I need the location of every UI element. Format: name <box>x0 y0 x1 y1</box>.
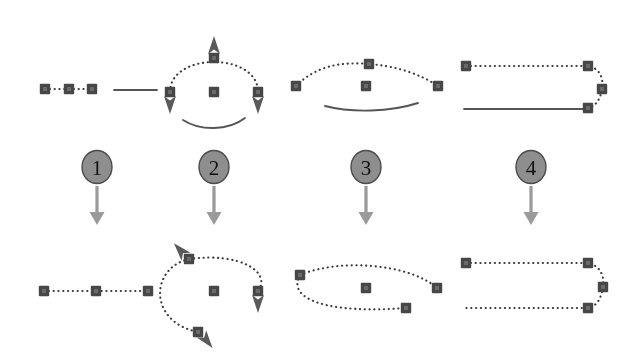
diagram-canvas: 1234 <box>0 0 635 353</box>
step-4-after-dotted-path-0[interactable] <box>466 263 603 308</box>
step-4-after-node-3[interactable] <box>583 303 593 313</box>
dotted-paths-layer <box>44 62 603 332</box>
step-3-after-node-0[interactable] <box>295 270 305 280</box>
step-2-after-node-0[interactable] <box>184 254 194 264</box>
step-1-before-node-1[interactable] <box>64 84 74 94</box>
step-1-transition-arrow <box>90 186 105 225</box>
step-1-after-node-1[interactable] <box>91 286 101 296</box>
solid-paths-layer <box>114 90 588 128</box>
step-2-after-node-3[interactable] <box>209 286 219 296</box>
step-badge-number: 1 <box>92 156 103 180</box>
step-2-before-node-1[interactable] <box>165 87 175 97</box>
step-1-before-node-0[interactable] <box>40 84 50 94</box>
step-1-after-node-0[interactable] <box>39 286 49 296</box>
step-2-before-node-3[interactable] <box>209 87 219 97</box>
step-3-before-node-3[interactable] <box>361 81 371 91</box>
step-badges-layer: 1234 <box>82 151 546 184</box>
step-badge-2[interactable]: 2 <box>199 151 229 184</box>
step-3-before-solid-path-0[interactable] <box>325 103 418 111</box>
step-4-after-node-2[interactable] <box>598 282 608 292</box>
control-point-nodes-layer <box>39 53 608 337</box>
step-2-before-solid-path-0[interactable] <box>183 118 245 128</box>
step-4-before-node-0[interactable] <box>461 61 471 71</box>
step-4-before-node-2[interactable] <box>597 84 607 94</box>
step-1-before-node-2[interactable] <box>87 84 97 94</box>
step-3-transition-arrow <box>359 186 374 225</box>
step-4-after-node-1[interactable] <box>583 258 593 268</box>
step-3-after-node-2[interactable] <box>401 303 411 313</box>
step-3-before-node-1[interactable] <box>364 59 374 69</box>
step-3-after-node-1[interactable] <box>432 283 442 293</box>
step-2-after-direction-arrow-1 <box>252 295 264 313</box>
step-2-transition-arrow <box>207 186 222 225</box>
step-arrows-layer <box>90 186 539 225</box>
step-badge-number: 3 <box>361 156 372 180</box>
step-badge-4[interactable]: 4 <box>516 151 546 184</box>
step-2-after-node-1[interactable] <box>253 286 263 296</box>
step-3-before-node-2[interactable] <box>433 81 443 91</box>
step-2-before-direction-arrow-0 <box>208 36 220 54</box>
step-badge-1[interactable]: 1 <box>82 151 112 184</box>
step-4-transition-arrow <box>524 186 539 225</box>
step-3-before-node-0[interactable] <box>291 81 301 91</box>
step-2-before-node-2[interactable] <box>253 87 263 97</box>
step-4-after-node-0[interactable] <box>461 258 471 268</box>
step-2-before-node-0[interactable] <box>209 53 219 63</box>
step-4-before-dotted-path-0[interactable] <box>466 66 602 108</box>
step-4-before-node-1[interactable] <box>583 61 593 71</box>
step-2-before-direction-arrow-1 <box>164 96 176 114</box>
step-1-after-node-2[interactable] <box>143 286 153 296</box>
step-2-before-direction-arrow-2 <box>252 96 264 114</box>
step-badge-number: 4 <box>526 156 537 180</box>
path-operations-svg: 1234 <box>0 0 635 353</box>
step-badge-number: 2 <box>209 156 220 180</box>
step-badge-3[interactable]: 3 <box>351 151 381 184</box>
step-4-before-node-3[interactable] <box>583 103 593 113</box>
step-3-after-node-3[interactable] <box>361 283 371 293</box>
step-2-after-node-2[interactable] <box>193 327 203 337</box>
